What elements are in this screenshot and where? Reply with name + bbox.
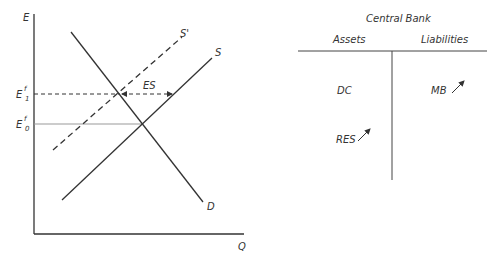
- asset-res: RES: [336, 134, 356, 145]
- supply-curve: [62, 58, 212, 200]
- liability-mb: MB: [431, 85, 447, 96]
- svg-text:1: 1: [25, 95, 29, 103]
- t-account-title: Central Bank: [366, 13, 432, 24]
- central-bank-t-account: Central Bank Assets Liabilities DC RES M…: [298, 13, 487, 180]
- x-axis-label: Q: [238, 241, 246, 252]
- e0-label: E f 0: [16, 115, 30, 133]
- liabilities-header: Liabilities: [421, 34, 468, 45]
- demand-label: D: [207, 201, 215, 212]
- svg-text:E: E: [16, 119, 23, 130]
- svg-text:E: E: [16, 89, 23, 100]
- svg-text:f: f: [24, 115, 28, 123]
- supply-label: S: [215, 47, 222, 58]
- supply-shift-label: S': [180, 28, 189, 39]
- assets-header: Assets: [332, 34, 366, 45]
- diagram-canvas: E Q S S' D ES E f 1 E f 0 Central Bank A…: [0, 0, 501, 263]
- res-up-arrow-icon: [358, 129, 370, 141]
- mb-up-arrow-icon: [452, 81, 464, 93]
- e1-label: E f 1: [16, 85, 29, 103]
- svg-text:f: f: [24, 85, 28, 93]
- es-label: ES: [143, 80, 156, 91]
- y-axis-label: E: [23, 12, 30, 23]
- asset-dc: DC: [337, 85, 352, 96]
- svg-text:0: 0: [25, 125, 30, 133]
